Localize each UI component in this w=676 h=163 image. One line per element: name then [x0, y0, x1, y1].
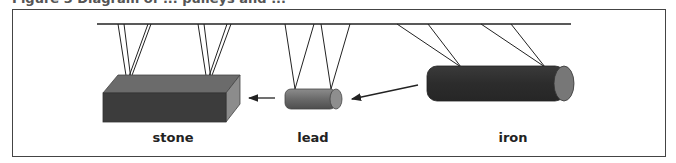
iron-ropes: [397, 24, 545, 67]
label-lead: lead: [297, 130, 328, 145]
stone-block: [103, 75, 240, 122]
lead-ropes: [285, 24, 350, 89]
stone-ropes: [118, 24, 231, 82]
iron-cylinder: [427, 66, 574, 101]
arrow-iron-to-lead: [352, 85, 418, 99]
suspension-diagram: [0, 0, 676, 163]
label-iron: iron: [498, 130, 527, 145]
lead-cylinder: [285, 89, 342, 109]
label-stone: stone: [153, 130, 194, 145]
